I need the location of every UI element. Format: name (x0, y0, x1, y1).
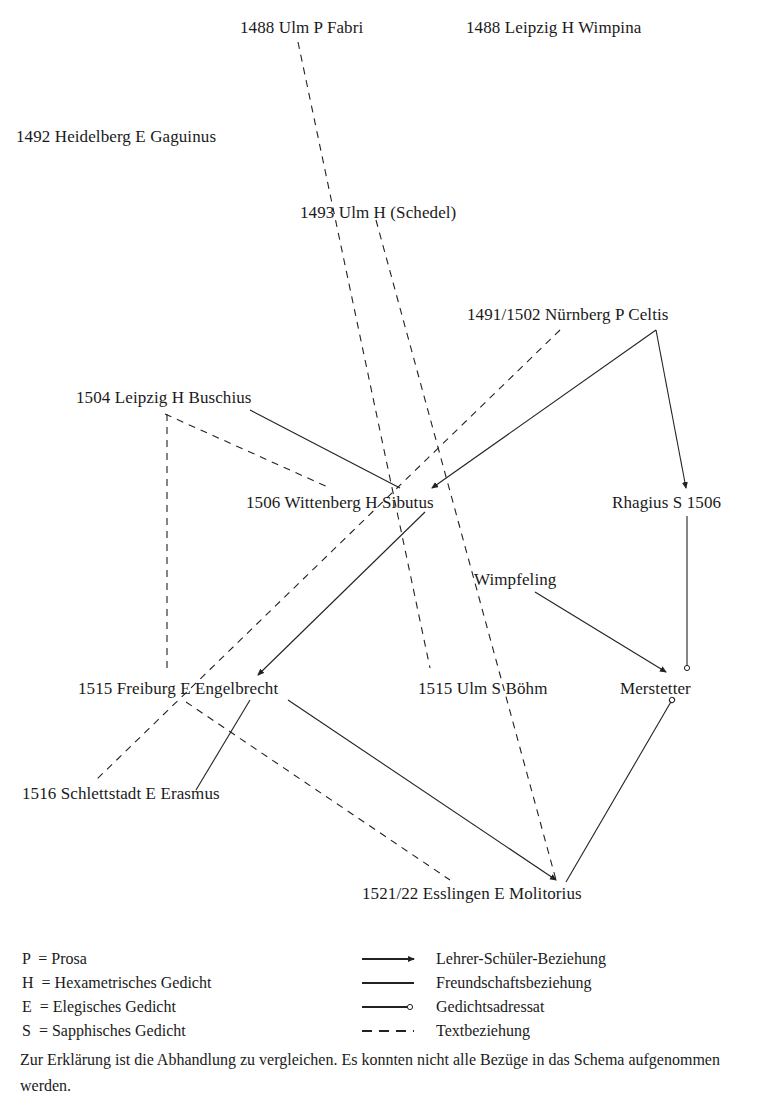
node-merstetter: Merstetter (620, 679, 691, 699)
edge-buschius-sibutus-text (165, 414, 330, 488)
node-wimpina: 1488 Leipzig H Wimpina (466, 18, 641, 38)
node-rhagius: Rhagius S 1506 (612, 493, 721, 513)
node-fabri: 1488 Ulm P Fabri (240, 18, 363, 38)
legend-rel-teacher: Lehrer-Schüler-Beziehung (436, 949, 606, 969)
legend-abbr-hexametrisch: H = Hexametrisches Gedicht (22, 973, 211, 993)
legend-abbr-sapphisch: S = Sapphisches Gedicht (22, 1021, 186, 1041)
node-molitorius: 1521/22 Esslingen E Molitorius (362, 884, 582, 904)
legend-line-samples (362, 959, 414, 1031)
node-sibutus: 1506 Wittenberg H Sibutus (246, 493, 434, 513)
edge-celtis-rhagius (656, 330, 686, 488)
edge-engelbrecht-molitorius-text (186, 702, 450, 880)
node-buschius: 1504 Leipzig H Buschius (76, 388, 252, 408)
legend-rel-addressee: Gedichtsadressat (436, 997, 544, 1017)
node-boehm: 1515 Ulm S Böhm (418, 679, 548, 699)
node-celtis: 1491/1502 Nürnberg P Celtis (467, 305, 669, 325)
edge-buschius-sibutus (250, 410, 400, 488)
relationship-diagram (0, 0, 762, 1111)
node-erasmus: 1516 Schlettstadt E Erasmus (22, 784, 220, 804)
node-engelbrecht: 1515 Freiburg E Engelbrecht (78, 679, 278, 699)
legend-rel-text: Textbeziehung (436, 1021, 530, 1041)
edge-engelbrecht-erasmus (196, 700, 250, 790)
explanatory-note: Zur Erklärung ist die Abhandlung zu verg… (20, 1047, 760, 1099)
edge-sibutus-engelbrecht (258, 512, 425, 675)
edges-layer (96, 42, 687, 882)
edge-wimpfeling-merstetter (535, 592, 666, 672)
node-wimpfeling: Wimpfeling (474, 570, 556, 590)
node-gaguinus: 1492 Heidelberg E Gaguinus (16, 127, 216, 147)
edge-engelbrecht-molitorius (288, 700, 556, 880)
legend-abbr-elegisch: E = Elegisches Gedicht (22, 997, 176, 1017)
legend-rel-friend: Freundschaftsbeziehung (436, 973, 592, 993)
edge-merstetter-molitorius (566, 700, 672, 882)
legend-abbr-prosa: P = Prosa (22, 949, 87, 969)
edge-fabri-boehm (298, 42, 430, 668)
node-schedel: 1493 Ulm H (Schedel) (300, 203, 456, 223)
edge-celtis-sibutus (432, 330, 656, 488)
